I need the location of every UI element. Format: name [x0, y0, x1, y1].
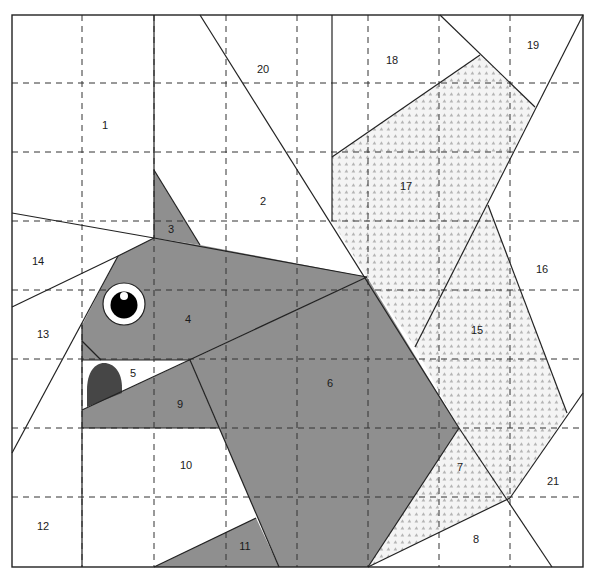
region-label-4: 4	[185, 313, 191, 325]
region-label-18: 18	[386, 54, 398, 66]
region-label-9: 9	[177, 398, 183, 410]
region-label-12: 12	[37, 520, 49, 532]
region-label-11: 11	[239, 540, 250, 552]
region-label-10: 10	[180, 459, 192, 471]
region-label-17: 17	[400, 180, 412, 192]
region-label-8: 8	[473, 533, 479, 545]
region-label-21: 21	[547, 475, 559, 487]
eye-icon	[103, 283, 145, 325]
region-label-2: 2	[260, 195, 266, 207]
region-label-20: 20	[257, 63, 269, 75]
region-label-5: 5	[130, 367, 136, 379]
region-label-14: 14	[32, 255, 44, 267]
region-label-15: 15	[471, 324, 483, 336]
region-label-6: 6	[327, 377, 333, 389]
pattern-diagram: 1 2 3 4 5 6 7 8 9 10 11 12 13 14 15 16 1…	[0, 0, 592, 583]
region-label-1: 1	[102, 119, 108, 131]
region-label-3: 3	[168, 223, 174, 235]
region-label-7: 7	[457, 461, 463, 473]
region-label-16: 16	[536, 263, 548, 275]
region-label-19: 19	[527, 39, 539, 51]
region-label-13: 13	[37, 328, 49, 340]
